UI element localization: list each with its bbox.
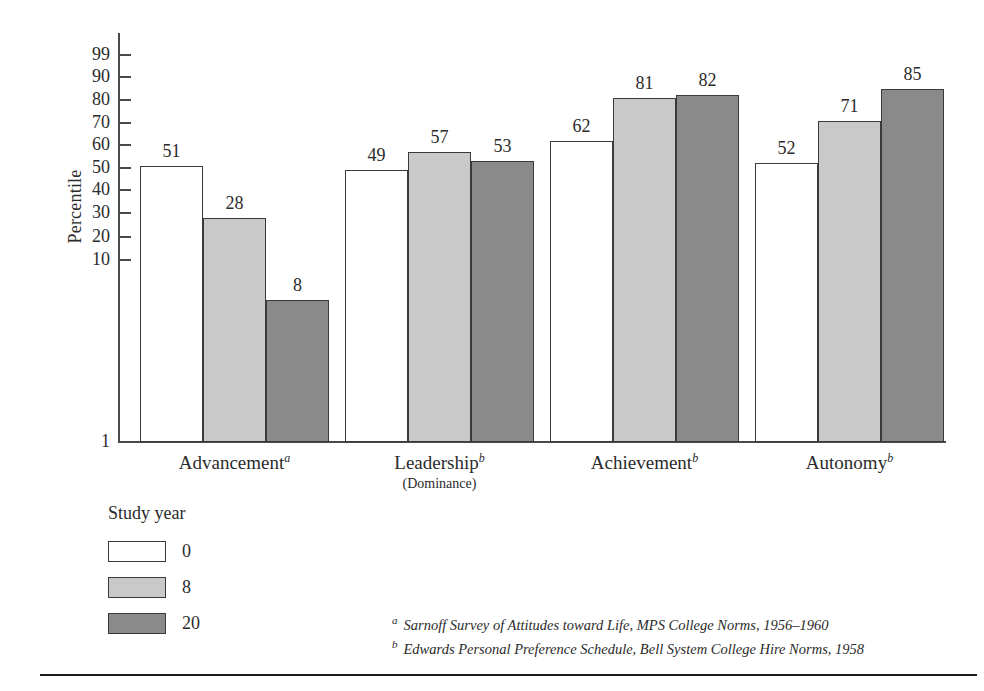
- category-name: Advancement: [179, 452, 285, 473]
- y-axis-tick-label-wrap: 30: [60, 203, 110, 221]
- bar: [203, 218, 266, 442]
- legend-items: 0820: [108, 540, 200, 634]
- bar: [676, 95, 739, 442]
- bar-value-label: 49: [347, 146, 407, 164]
- bar-value-label: 71: [820, 97, 880, 115]
- legend: Study year 0820: [108, 503, 200, 648]
- footnote: bEdwards Personal Preference Schedule, B…: [392, 636, 972, 660]
- legend-label: 8: [182, 577, 191, 598]
- y-axis-tick-label-wrap: 10: [60, 250, 110, 268]
- bar-value-label: 53: [473, 137, 533, 155]
- bar-value-label: 28: [205, 194, 265, 212]
- category-name: Leadership: [394, 452, 478, 473]
- y-axis-tick-label: 20: [60, 227, 110, 245]
- bar-value-label: 52: [757, 139, 817, 157]
- y-axis-tick-label: 1: [60, 432, 110, 450]
- bar: [140, 166, 203, 442]
- bar-value-label: 57: [410, 128, 470, 146]
- bar: [345, 170, 408, 442]
- y-axis-tick-label: 80: [60, 90, 110, 108]
- footnotes: aSarnoff Survey of Attitudes toward Life…: [392, 612, 972, 661]
- y-axis-tick-label: 99: [60, 45, 110, 63]
- category-name: Autonomy: [806, 452, 887, 473]
- y-axis-tick-label: 70: [60, 113, 110, 131]
- y-axis-tick-label-wrap: 90: [60, 67, 110, 85]
- y-axis-tick-label-wrap: 70: [60, 113, 110, 131]
- bar-value-label: 8: [268, 276, 328, 294]
- category-footnote-mark: a: [284, 451, 290, 465]
- footnote-text: Sarnoff Survey of Attitudes toward Life,…: [404, 617, 829, 633]
- legend-swatch: [108, 577, 166, 598]
- y-axis-tick-label: 40: [60, 180, 110, 198]
- x-axis-category-label: Advancementa: [120, 452, 350, 474]
- footnote-mark: b: [392, 638, 398, 650]
- bar: [613, 98, 676, 442]
- x-axis-category-label: Autonomyb: [735, 452, 965, 474]
- bottom-rule: [40, 674, 977, 676]
- y-axis-tick-label: 90: [60, 67, 110, 85]
- bar: [550, 141, 613, 442]
- bar-value-label: 81: [615, 74, 675, 92]
- bar: [881, 89, 944, 443]
- footnote: aSarnoff Survey of Attitudes toward Life…: [392, 612, 972, 636]
- y-axis-tick-label-wrap: 40: [60, 180, 110, 198]
- legend-title: Study year: [108, 503, 200, 524]
- bar-value-label: 62: [552, 117, 612, 135]
- legend-label: 20: [182, 613, 200, 634]
- y-axis-tick-label-wrap: 50: [60, 158, 110, 176]
- bar-value-label: 85: [883, 65, 943, 83]
- legend-item: 20: [108, 612, 200, 634]
- category-subtitle: (Dominance): [325, 476, 555, 492]
- bar: [408, 152, 471, 442]
- category-footnote-mark: b: [887, 451, 893, 465]
- bar: [755, 163, 818, 442]
- category-footnote-mark: b: [692, 451, 698, 465]
- x-axis-category-label: Achievementb: [530, 452, 760, 474]
- y-axis-tick-label-wrap: 80: [60, 90, 110, 108]
- y-axis-tick-label: 60: [60, 135, 110, 153]
- bar: [471, 161, 534, 442]
- bar: [818, 121, 881, 442]
- y-axis-tick-label: 10: [60, 250, 110, 268]
- plot-area: 51288495753628182527185: [118, 33, 946, 442]
- footnote-text: Edwards Personal Preference Schedule, Be…: [404, 641, 865, 657]
- legend-swatch: [108, 613, 166, 634]
- y-axis-tick-label: 50: [60, 158, 110, 176]
- x-axis-category-label: Leadershipb(Dominance): [325, 452, 555, 492]
- legend-item: 8: [108, 576, 200, 598]
- percentile-bar-chart-figure: Percentile 999080706050403020101 5128849…: [0, 0, 984, 691]
- legend-label: 0: [182, 541, 191, 562]
- legend-item: 0: [108, 540, 200, 562]
- legend-swatch: [108, 541, 166, 562]
- y-axis-tick-label-wrap: 20: [60, 227, 110, 245]
- bar-value-label: 82: [678, 71, 738, 89]
- y-axis-tick-label-wrap: 1: [60, 432, 110, 450]
- y-axis-tick-label: 30: [60, 203, 110, 221]
- category-footnote-mark: b: [479, 451, 485, 465]
- y-axis-tick-label-wrap: 99: [60, 45, 110, 63]
- y-axis-tick-label-wrap: 60: [60, 135, 110, 153]
- category-name: Achievement: [591, 452, 692, 473]
- bar-value-label: 51: [142, 142, 202, 160]
- bar: [266, 300, 329, 442]
- footnote-mark: a: [392, 614, 398, 626]
